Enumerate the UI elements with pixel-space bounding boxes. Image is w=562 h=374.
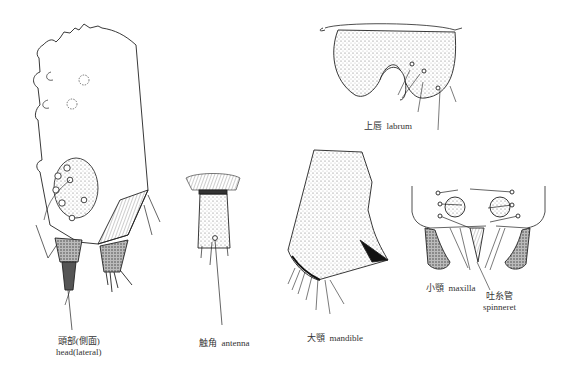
antenna-label: 触角 antenna	[199, 338, 249, 349]
labrum-label: 上唇 labrum	[364, 121, 412, 132]
head-label: 頭部(側面) head(lateral)	[56, 336, 101, 358]
head-label-ja: 頭部(側面)	[56, 336, 101, 347]
maxilla-label-ja: 小顎	[426, 283, 444, 293]
spinneret-label-ja: 吐糸管	[483, 291, 516, 302]
maxilla-label: 小顎 maxilla	[426, 283, 476, 294]
labrum-drawing	[320, 24, 462, 130]
labrum-label-ja: 上唇	[364, 121, 382, 131]
head-label-en: head(lateral)	[56, 347, 101, 358]
head-lateral-drawing	[34, 24, 160, 330]
mandible-drawing	[288, 150, 388, 314]
maxilla-spinneret-drawing	[412, 186, 545, 290]
spinneret-label-en: spinneret	[483, 302, 516, 313]
mandible-label-en: mandible	[330, 333, 364, 343]
illustration-canvas	[0, 0, 562, 374]
antenna-drawing	[186, 174, 240, 326]
maxilla-label-en: maxilla	[449, 283, 476, 293]
labrum-label-en: labrum	[387, 121, 413, 131]
antenna-label-ja: 触角	[199, 338, 217, 348]
mandible-label: 大顎 mandible	[307, 333, 363, 344]
spinneret-label: 吐糸管 spinneret	[483, 291, 516, 313]
antenna-label-en: antenna	[222, 338, 250, 348]
mandible-label-ja: 大顎	[307, 333, 325, 343]
